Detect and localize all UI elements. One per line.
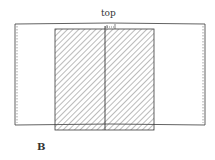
top-label: top <box>101 8 116 18</box>
hatched-panel <box>55 29 154 130</box>
figure-label: B <box>37 141 45 152</box>
pattern-diagram: top B <box>0 0 215 160</box>
top-marker <box>105 24 115 29</box>
